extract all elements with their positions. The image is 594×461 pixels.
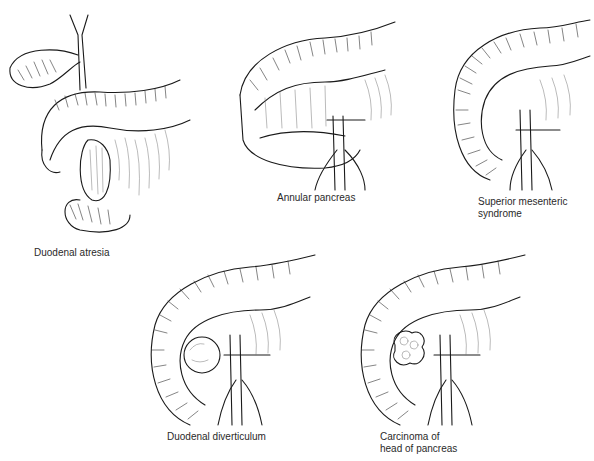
carcinoma-head-of-pancreas-illustration: [350, 255, 550, 430]
duodenal-atresia-illustration: [0, 0, 200, 245]
duodenal-diverticulum-illustration: [140, 255, 340, 430]
panel-duodenal-diverticulum: Duodenal diverticulum: [140, 255, 340, 461]
panel-carcinoma-head-of-pancreas: Carcinoma of head of pancreas: [350, 255, 550, 461]
superior-mesenteric-syndrome-illustration: [440, 20, 594, 200]
label-duodenal-atresia: Duodenal atresia: [34, 247, 110, 259]
label-superior-mesenteric-syndrome: Superior mesenteric syndrome: [478, 196, 567, 220]
panel-annular-pancreas: Annular pancreas: [225, 20, 425, 210]
panel-duodenal-atresia: Duodenal atresia: [0, 0, 200, 260]
panel-superior-mesenteric-syndrome: Superior mesenteric syndrome: [440, 20, 594, 235]
label-annular-pancreas: Annular pancreas: [277, 192, 355, 204]
label-carcinoma-head-of-pancreas: Carcinoma of head of pancreas: [380, 431, 457, 455]
annular-pancreas-illustration: [225, 20, 425, 190]
label-duodenal-diverticulum: Duodenal diverticulum: [167, 431, 266, 443]
